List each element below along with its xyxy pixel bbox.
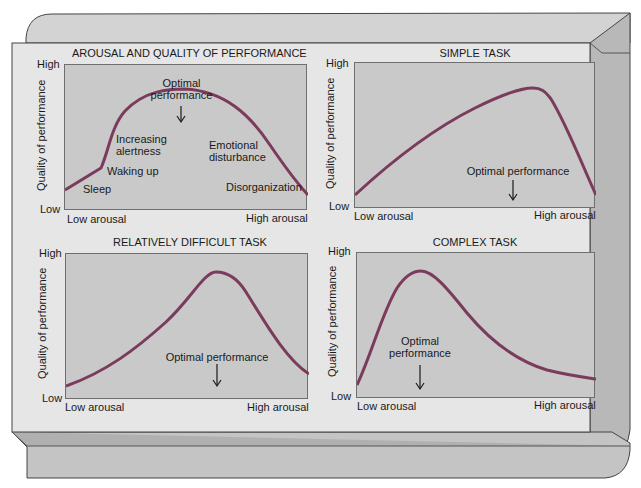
y-axis-label: Quality of performance — [35, 81, 47, 191]
y-tick-low: Low — [331, 390, 351, 402]
y-axis-label: Quality of performance — [326, 267, 338, 377]
y-tick-low: Low — [329, 200, 349, 212]
x-tick-low: Low arousal — [354, 210, 413, 222]
y-tick-low: Low — [42, 392, 62, 404]
y-tick-low: Low — [40, 203, 60, 215]
annotation-sleep: Sleep — [83, 183, 111, 195]
annotation-increasing-alertness: Increasing alertness — [116, 133, 167, 157]
x-tick-low: Low arousal — [65, 401, 124, 413]
plot-area: Optimal performance — [354, 62, 595, 208]
chart-title: RELATIVELY DIFFICULT TASK — [100, 236, 280, 248]
y-tick-high: High — [39, 247, 62, 259]
y-tick-high: High — [326, 57, 349, 69]
annotation-disorganization: Disorganization — [226, 181, 302, 193]
x-tick-high: High arousal — [246, 212, 308, 224]
y-tick-high: High — [328, 245, 351, 257]
y-axis-label: Quality of performance — [36, 269, 48, 379]
performance-curve — [357, 253, 596, 399]
plot-area: Optimal performance — [65, 253, 308, 399]
x-tick-low: Low arousal — [67, 213, 126, 225]
annotation-optimal: Optimal performance — [162, 351, 272, 363]
y-axis-label: Quality of performance — [324, 79, 336, 189]
plot-area: Optimal performance Increasing alertness… — [64, 64, 307, 210]
performance-curve — [355, 63, 596, 209]
plot-area: Optimal performance — [356, 252, 595, 398]
x-tick-high: High arousal — [534, 209, 596, 221]
annotation-optimal: Optimal performance — [149, 77, 214, 101]
annotation-optimal: Optimal performance — [463, 165, 573, 177]
chart-title: SIMPLE TASK — [400, 47, 550, 59]
annotation-waking-up: Waking up — [107, 165, 159, 177]
x-tick-high: High arousal — [247, 401, 309, 413]
chart-title: COMPLEX TASK — [400, 236, 550, 248]
performance-curve — [66, 254, 309, 400]
annotation-emotional-disturbance: Emotional disturbance — [209, 139, 266, 163]
chart-title: AROUSAL AND QUALITY OF PERFORMANCE — [72, 47, 302, 59]
x-tick-low: Low arousal — [357, 400, 416, 412]
x-tick-high: High arousal — [534, 399, 596, 411]
annotation-optimal: Optimal performance — [385, 335, 455, 359]
y-tick-high: High — [37, 58, 60, 70]
